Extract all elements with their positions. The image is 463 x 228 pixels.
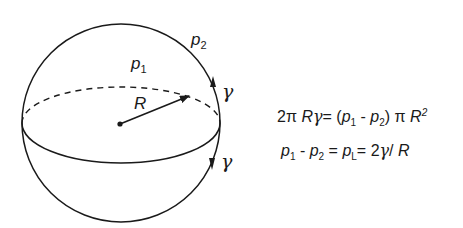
eq1-equals: = (323, 108, 332, 125)
eq1-exp: 2 (422, 107, 428, 118)
eq2-slash: / (389, 142, 398, 159)
equator-front (22, 123, 220, 163)
eq1-gamma: γ (313, 107, 323, 126)
label-p1: p1 (131, 55, 147, 75)
label-radius: R (134, 95, 146, 112)
label-p1-sub: 1 (140, 63, 146, 75)
eq2-pL: p (342, 142, 351, 159)
eq2-equals: = (324, 142, 342, 159)
equator-back-dashed (22, 87, 220, 123)
label-p2-sub: 2 (200, 39, 206, 51)
eq1-R: R (301, 108, 313, 125)
equation-laplace-pressure: p1 - p2 = pL= 2γ/ R (281, 143, 410, 162)
equation-force-balance: 2π Rγ= (p1 - p2) π R2 (277, 108, 427, 128)
eq1-R2: R (410, 108, 422, 125)
eq1-pi: π (390, 108, 410, 125)
label-gamma-bottom: γ (221, 152, 232, 171)
label-p2: p2 (191, 31, 207, 51)
eq2-equals-2: = 2 (357, 142, 380, 159)
eq2-minus: - (295, 142, 309, 159)
eq1-p2: p (370, 108, 379, 125)
eq1-coef: 2π (277, 108, 297, 125)
label-gamma-top: γ (222, 82, 233, 101)
eq2-p1: p (281, 142, 290, 159)
eq2-R: R (398, 142, 410, 159)
eq1-minus: - (356, 108, 370, 125)
radius-arrow (120, 96, 189, 124)
eq2-p2: p (310, 142, 319, 159)
eq2-gamma: γ (380, 141, 390, 160)
eq1-p1: p (342, 108, 351, 125)
